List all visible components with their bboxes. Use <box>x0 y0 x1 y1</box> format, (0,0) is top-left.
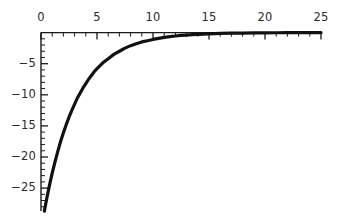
x-tick-label: 25 <box>313 12 328 24</box>
chart-figure: 0510152025 −5−10−15−20−25 <box>0 0 345 216</box>
y-tick-label: −25 <box>11 182 36 194</box>
x-tick-label: 5 <box>93 12 101 24</box>
x-tick-label: 0 <box>37 12 45 24</box>
y-tick-label: −20 <box>11 151 36 163</box>
data-series-group <box>44 33 321 211</box>
y-tick-label: −5 <box>19 58 36 70</box>
x-tick-label: 10 <box>145 12 160 24</box>
x-tick-label: 15 <box>201 12 216 24</box>
data-curve <box>44 33 321 211</box>
plot-canvas <box>0 0 345 216</box>
axes-group <box>41 33 321 212</box>
x-tick-label: 20 <box>257 12 272 24</box>
y-tick-label: −15 <box>11 120 36 132</box>
y-tick-label: −10 <box>11 89 36 101</box>
